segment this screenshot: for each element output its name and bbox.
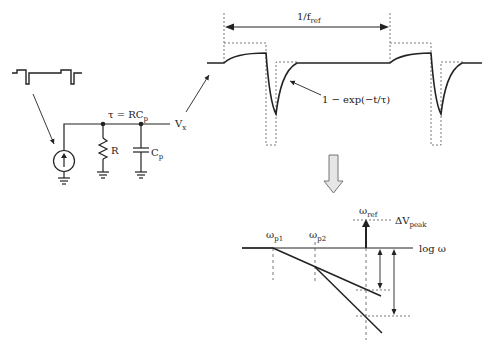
- vx-to-waveform-arrow: [186, 75, 209, 112]
- arrowhead-left-icon: [225, 24, 234, 31]
- attenuation-arrows: [380, 252, 394, 312]
- diagram-canvas: τ = RCp R Cp Vx 1/fref 1 − exp(−t/τ) log…: [0, 0, 494, 343]
- pole1-label: ωp1: [266, 229, 283, 243]
- curve-label: 1 − exp(−t/τ): [322, 94, 390, 105]
- node-dot: [101, 122, 106, 127]
- arrowhead-right-icon: [380, 24, 389, 31]
- curve-annotation-arrow: [290, 81, 321, 95]
- axis-label: log ω: [419, 243, 446, 254]
- period-label: 1/fref: [297, 11, 322, 25]
- peak-label: ΔVpeak: [395, 215, 427, 229]
- pulse-to-source-arrow: [33, 94, 54, 144]
- ref-frequency-label: ωref: [359, 205, 379, 219]
- pole-markers: [273, 242, 366, 340]
- pole2-label: ωp2: [309, 229, 326, 243]
- tau-label: τ = RCp: [108, 109, 148, 123]
- attenuation-levels: [356, 290, 410, 316]
- transform-down-arrow-icon: [324, 155, 343, 193]
- input-pulse-waveform: [12, 70, 82, 84]
- resistor-icon: [99, 138, 107, 159]
- bode-asymptotes: [242, 248, 382, 333]
- capacitor-label: Cp: [151, 147, 164, 161]
- output-voltage-label: Vx: [174, 118, 186, 132]
- resistor-label: R: [111, 145, 119, 156]
